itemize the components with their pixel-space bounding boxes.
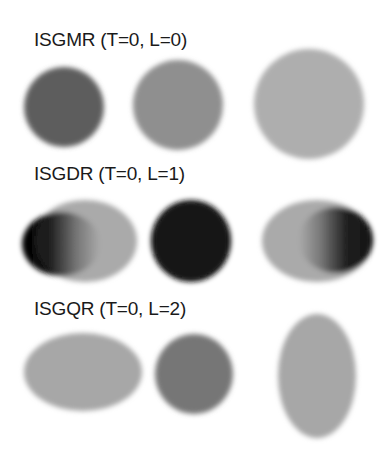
shape-isgqr-2 [155, 334, 233, 414]
halftone-overlay [33, 200, 137, 282]
shape-isgmr-2 [133, 60, 223, 150]
density-shapes [0, 0, 392, 449]
shape-isgmr-3 [254, 49, 364, 159]
halftone-overlay [155, 334, 233, 414]
figure-canvas: ISGMR (T=0, L=0) ISGDR (T=0, L=1) ISGQR … [0, 0, 392, 449]
halftone-overlay [278, 314, 356, 438]
shape-isgmr-1 [24, 67, 104, 147]
halftone-overlay [262, 200, 372, 282]
shape-isgdr-1 [22, 200, 137, 282]
shape-isgdr-2 [151, 200, 231, 282]
halftone-overlay [24, 333, 142, 411]
halftone-overlay [254, 49, 364, 159]
shape-isgdr-3 [262, 200, 373, 282]
shape-isgqr-3 [278, 314, 356, 438]
shape-isgqr-1 [24, 333, 142, 411]
halftone-overlay [151, 200, 231, 282]
halftone-overlay [133, 60, 223, 150]
halftone-overlay [24, 67, 104, 147]
